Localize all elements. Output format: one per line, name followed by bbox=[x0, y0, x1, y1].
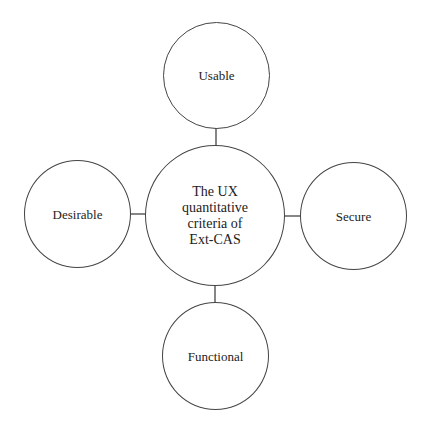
node-usable-label: Usable bbox=[198, 68, 234, 83]
node-secure: Secure bbox=[300, 162, 407, 270]
node-desirable: Desirable bbox=[24, 160, 131, 268]
node-desirable-label: Desirable bbox=[53, 207, 103, 222]
center-label-line-1: The UX bbox=[182, 184, 248, 200]
node-secure-label: Secure bbox=[336, 209, 371, 224]
node-functional: Functional bbox=[162, 302, 269, 410]
node-center: The UX quantitative criteria of Ext-CAS bbox=[145, 145, 285, 286]
center-label-line-4: Ext-CAS bbox=[182, 232, 248, 248]
center-label-line-2: quantitative bbox=[182, 200, 248, 216]
node-functional-label: Functional bbox=[188, 349, 244, 364]
node-usable: Usable bbox=[163, 22, 270, 129]
center-label: The UX quantitative criteria of Ext-CAS bbox=[182, 184, 248, 248]
center-label-line-3: criteria of bbox=[182, 216, 248, 232]
